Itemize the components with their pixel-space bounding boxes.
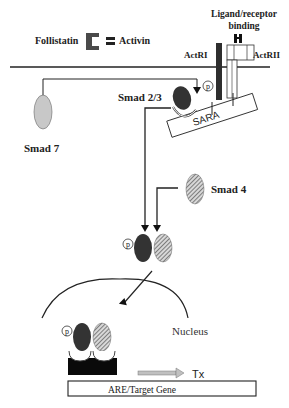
phospho-receptor-icon: p [203,81,213,91]
actr2-receptor [227,45,254,98]
actr2-label: ActRII [253,50,280,60]
activin-label: Activin [119,35,151,46]
svg-text:p: p [65,327,69,336]
activin-ligand-icon [234,34,242,43]
smad7-protein [34,95,52,129]
ligand-binding-label-line2: binding [228,21,259,31]
actr1-receptor [216,43,222,100]
svg-text:p: p [206,82,210,91]
cytoplasmic-smad-complex: p [123,234,172,262]
target-gene-label: ARE/Target Gene [108,385,176,395]
tx-label: Tx [192,368,205,380]
smad4-label: Smad 4 [211,183,247,195]
activin-icon [106,37,115,45]
nuclear-envelope [42,279,188,318]
transcription-arrow [138,368,184,378]
svg-text:p: p [126,240,130,249]
follistatin-icon [86,33,99,50]
follistatin-label: Follistatin [35,35,79,46]
nuclear-import-arrow [124,271,152,303]
ligand-binding-label-line1: Ligand/receptor [211,9,278,19]
smad7-label: Smad 7 [24,142,60,154]
smad4-protein [186,174,204,204]
smad23-label: Smad 2/3 [118,91,162,103]
nuclear-smad-complex: p [62,323,117,375]
pathway-diagram: Follistatin Activin Ligand/receptor bind… [0,0,289,408]
nucleus-label: Nucleus [172,325,208,337]
actr1-label: ActRI [184,50,208,60]
smad4-to-complex-arrow [157,188,178,226]
smad23-translocation-arrow [145,108,171,226]
